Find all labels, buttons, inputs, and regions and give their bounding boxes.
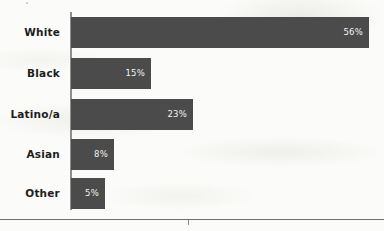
chart-page: White 56% Black 15% Latino/a 23% Asian 8…: [0, 0, 384, 231]
bar-value-asian: 8%: [94, 139, 108, 170]
bar-black[interactable]: 15%: [71, 58, 151, 89]
category-label-asian: Asian: [0, 139, 60, 170]
bar-value-other: 5%: [85, 178, 99, 209]
footer-tick-mark: [188, 220, 189, 225]
bar-value-latino: 23%: [168, 99, 188, 130]
bar-row: Asian 8%: [0, 139, 384, 170]
category-label-white: White: [0, 17, 60, 48]
bar-row: Black 15%: [0, 58, 384, 89]
footer-divider-rule: [0, 219, 384, 220]
category-label-other: Other: [0, 178, 60, 209]
bar-latino[interactable]: 23%: [71, 99, 193, 130]
bar-row: Other 5%: [0, 178, 384, 209]
bar-white[interactable]: 56%: [71, 17, 369, 48]
category-label-latino: Latino/a: [0, 99, 60, 130]
bar-row: Latino/a 23%: [0, 99, 384, 130]
bar-other[interactable]: 5%: [71, 178, 105, 209]
bar-value-white: 56%: [344, 17, 364, 48]
bar-value-black: 15%: [126, 58, 146, 89]
category-label-black: Black: [0, 58, 60, 89]
bar-chart-plot-area: White 56% Black 15% Latino/a 23% Asian 8…: [0, 0, 384, 231]
bar-asian[interactable]: 8%: [71, 139, 114, 170]
bar-row: White 56%: [0, 17, 384, 48]
